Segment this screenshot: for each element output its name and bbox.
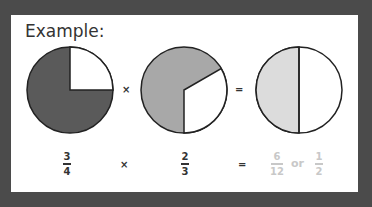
denominator: 12 [270,166,284,177]
multiply-sign: × [122,84,130,95]
fraction-bar [271,163,283,165]
example-title: Example: [25,21,104,41]
equals-sign: = [235,84,243,95]
pie-one-half [254,45,344,135]
fraction-bar [315,163,323,165]
denominator: 4 [64,166,71,177]
multiply-sign-equation: × [120,159,128,170]
numerator: 2 [182,151,189,162]
fraction-one-half: 1 2 [315,151,323,177]
or-label: or [291,157,304,170]
pie-two-thirds [139,45,229,135]
fraction-bar [181,163,189,165]
example-panel: Example: × = 3 4 × 2 3 = 6 12 or 1 2 [11,15,358,192]
equals-sign-equation: = [238,159,246,170]
pie-three-quarters [25,45,115,135]
denominator: 2 [316,166,323,177]
denominator: 3 [182,166,189,177]
fraction-three-fourths: 3 4 [63,151,71,177]
numerator: 1 [316,151,323,162]
fraction-two-thirds: 2 3 [181,151,189,177]
numerator: 3 [64,151,71,162]
fraction-bar [63,163,71,165]
fraction-six-twelfths: 6 12 [270,151,284,177]
numerator: 6 [273,151,280,162]
